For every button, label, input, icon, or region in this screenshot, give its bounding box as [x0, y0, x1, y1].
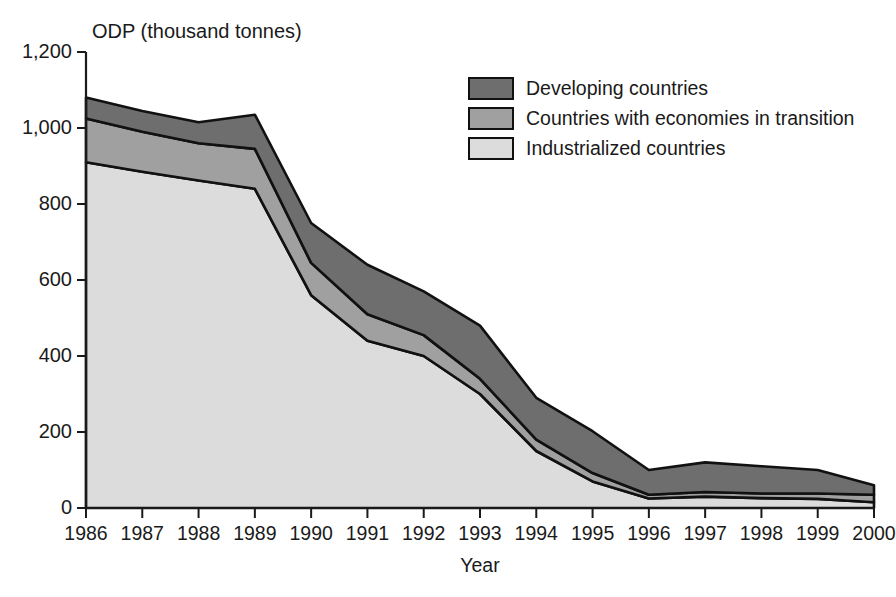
chart-container: 02004006008001,0001,200 1986198719881989… [0, 0, 896, 597]
x-tick-label: 1990 [289, 522, 333, 544]
x-tick-label: 1988 [177, 522, 220, 544]
x-axis-title: Year [460, 554, 500, 576]
y-tick-label: 1,200 [22, 40, 72, 62]
y-tick-label: 800 [39, 192, 72, 214]
x-tick-label: 1998 [740, 522, 783, 544]
x-tick-label: 1999 [796, 522, 839, 544]
x-tick-label: 1992 [402, 522, 445, 544]
y-tick-label: 200 [39, 420, 72, 442]
x-tick-label: 1995 [571, 522, 615, 544]
x-tick-label: 1997 [683, 522, 726, 544]
x-tick-label: 2000 [852, 522, 896, 544]
y-tick-label: 1,000 [22, 116, 72, 138]
legend-swatch-0 [469, 78, 513, 99]
x-tick-label: 1987 [121, 522, 164, 544]
x-axis-ticks: 1986198719881989199019911992199319941995… [64, 508, 896, 544]
legend-swatch-1 [469, 108, 513, 129]
x-tick-label: 1993 [458, 522, 501, 544]
y-axis-ticks: 02004006008001,0001,200 [22, 40, 86, 518]
x-tick-label: 1989 [233, 522, 276, 544]
x-tick-label: 1996 [627, 522, 670, 544]
legend-label-1: Countries with economies in transition [526, 107, 854, 129]
x-tick-label: 1994 [515, 522, 559, 544]
y-tick-label: 400 [39, 344, 72, 366]
x-tick-label: 1991 [346, 522, 389, 544]
y-axis-title: ODP (thousand tonnes) [92, 20, 302, 42]
legend-label-2: Industrialized countries [526, 137, 726, 159]
x-tick-label: 1986 [64, 522, 107, 544]
legend-swatch-2 [469, 138, 513, 159]
odp-stacked-area-chart: 02004006008001,0001,200 1986198719881989… [0, 0, 896, 597]
chart-legend: Developing countriesCountries with econo… [469, 77, 854, 159]
legend-label-0: Developing countries [526, 77, 708, 99]
y-tick-label: 600 [39, 268, 72, 290]
y-tick-label: 0 [61, 496, 72, 518]
